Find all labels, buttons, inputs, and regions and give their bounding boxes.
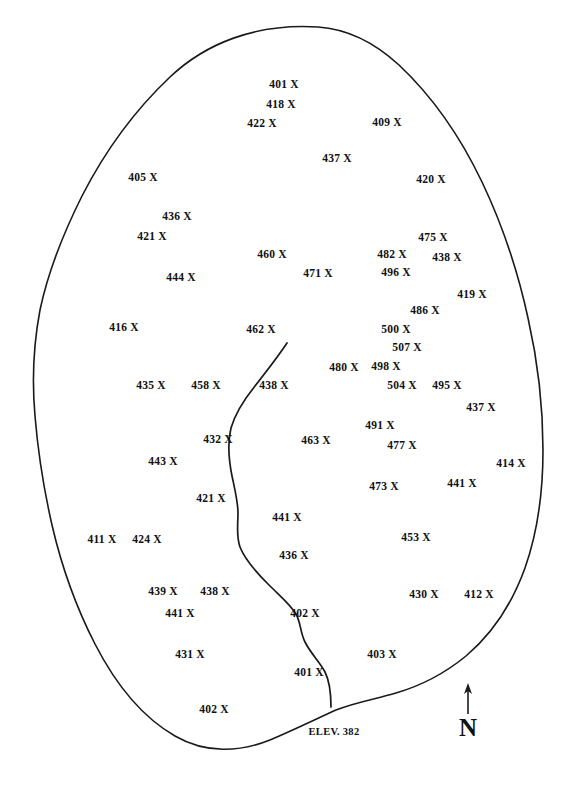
elevation-point-label: 437 X <box>466 402 495 414</box>
elevation-point-label: 401 X <box>294 667 323 679</box>
elevation-point-label: 441 X <box>447 478 476 490</box>
elevation-point-label: 443 X <box>148 456 177 468</box>
elevation-point-label: 405 X <box>128 172 157 184</box>
elevation-point-label: 441 X <box>165 608 194 620</box>
elevation-point-label: 402 X <box>199 704 228 716</box>
elevation-point-label: 477 X <box>387 440 416 452</box>
elevation-point-label: 439 X <box>148 586 177 598</box>
elevation-point-label: 430 X <box>409 589 438 601</box>
elevation-point-label: 438 X <box>259 380 288 392</box>
north-arrow-icon <box>464 683 472 714</box>
elevation-point-label: 500 X <box>381 324 410 336</box>
elevation-point-label: 403 X <box>367 649 396 661</box>
elevation-point-label: 438 X <box>432 252 461 264</box>
elevation-point-label: 409 X <box>372 117 401 129</box>
map-vector-layer <box>0 0 581 789</box>
elevation-point-label: 444 X <box>166 272 195 284</box>
elevation-point-label: 462 X <box>246 324 275 336</box>
elevation-point-label: 436 X <box>162 211 191 223</box>
elevation-point-label: 411 X <box>88 534 117 546</box>
elevation-point-label: 496 X <box>381 267 410 279</box>
elevation-point-label: 486 X <box>410 305 439 317</box>
elevation-point-label: 504 X <box>387 380 416 392</box>
elevation-point-label: 473 X <box>369 481 398 493</box>
elevation-point-label: 420 X <box>416 174 445 186</box>
elevation-point-label: 431 X <box>175 649 204 661</box>
elevation-point-label: 453 X <box>401 532 430 544</box>
elevation-point-label: 438 X <box>200 586 229 598</box>
elevation-point-label: 495 X <box>432 380 461 392</box>
elevation-point-label: 482 X <box>377 249 406 261</box>
elevation-point-label: 435 X <box>136 380 165 392</box>
elevation-point-label: 414 X <box>496 458 525 470</box>
elevation-datum-label: ELEV. 382 <box>309 727 360 738</box>
elevation-point-label: 419 X <box>457 289 486 301</box>
elevation-point-label: 421 X <box>137 231 166 243</box>
elevation-point-label: 491 X <box>365 420 394 432</box>
elevation-point-label: 463 X <box>301 435 330 447</box>
elevation-point-label: 424 X <box>132 534 161 546</box>
elevation-point-label: 402 X <box>290 608 319 620</box>
elevation-point-label: 401 X <box>269 79 298 91</box>
elevation-point-label: 471 X <box>303 268 332 280</box>
elevation-point-map: 401 X418 X422 X409 X437 X405 X420 X436 X… <box>0 0 581 789</box>
elevation-point-label: 458 X <box>191 380 220 392</box>
compass-north-letter: N <box>459 715 477 740</box>
elevation-point-label: 412 X <box>464 589 493 601</box>
elevation-point-label: 498 X <box>371 361 400 373</box>
elevation-point-label: 460 X <box>257 249 286 261</box>
elevation-point-label: 418 X <box>266 99 295 111</box>
elevation-point-label: 432 X <box>203 434 232 446</box>
elevation-point-label: 507 X <box>392 342 421 354</box>
elevation-point-label: 437 X <box>322 153 351 165</box>
elevation-point-label: 480 X <box>329 362 358 374</box>
elevation-point-label: 436 X <box>279 550 308 562</box>
elevation-point-label: 475 X <box>418 232 447 244</box>
elevation-point-label: 421 X <box>196 493 225 505</box>
elevation-point-label: 416 X <box>109 322 138 334</box>
elevation-point-label: 441 X <box>272 512 301 524</box>
elevation-point-label: 422 X <box>247 118 276 130</box>
